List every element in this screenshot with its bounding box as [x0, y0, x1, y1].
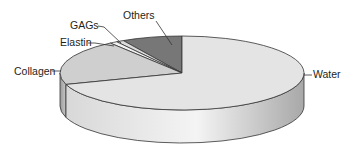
leader-line	[98, 26, 121, 43]
label-gags: GAGs	[70, 19, 99, 31]
label-elastin: Elastin	[60, 36, 92, 48]
label-collagen: Collagen	[14, 65, 56, 77]
label-others: Others	[123, 9, 155, 21]
pie-chart: Others GAGs Elastin Collagen Water	[0, 0, 351, 150]
label-water: Water	[313, 68, 341, 80]
